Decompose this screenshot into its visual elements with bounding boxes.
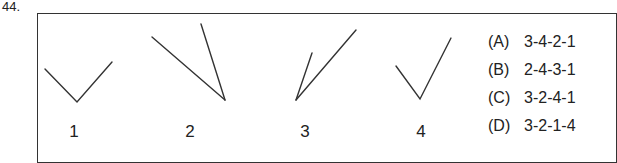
option-d[interactable]: (D)3-2-1-4	[488, 115, 576, 143]
option-b[interactable]: (B)2-4-3-1	[488, 59, 576, 87]
figure-3-shape	[296, 30, 356, 100]
figure-1-shape	[45, 62, 112, 102]
option-text: 2-4-3-1	[524, 61, 576, 78]
figure-4-label: 4	[411, 122, 431, 142]
option-letter: (D)	[488, 115, 524, 137]
option-text: 3-2-1-4	[524, 117, 576, 134]
option-letter: (A)	[488, 31, 524, 53]
option-text: 3-4-2-1	[524, 33, 576, 50]
option-letter: (B)	[488, 59, 524, 81]
figure-2-shape	[152, 24, 225, 100]
figure-4-shape	[396, 38, 451, 99]
option-text: 3-2-4-1	[524, 89, 576, 106]
option-c[interactable]: (C)3-2-4-1	[488, 87, 576, 115]
figure-2-label: 2	[180, 122, 200, 142]
option-letter: (C)	[488, 87, 524, 109]
answer-options: (A)3-4-2-1 (B)2-4-3-1 (C)3-2-4-1 (D)3-2-…	[488, 31, 576, 143]
figure-1-label: 1	[64, 122, 84, 142]
figure-3-label: 3	[295, 122, 315, 142]
option-a[interactable]: (A)3-4-2-1	[488, 31, 576, 59]
